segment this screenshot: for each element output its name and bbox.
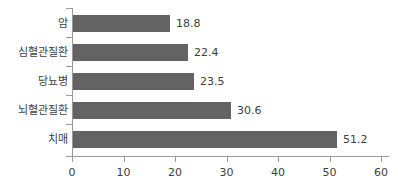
bar	[73, 131, 337, 148]
x-axis-tick	[124, 157, 125, 162]
category-label: 당뇨병	[0, 73, 68, 90]
y-axis-tick	[66, 8, 72, 9]
x-axis-tick-label: 50	[323, 166, 337, 179]
x-axis-tick	[381, 157, 382, 162]
bar-value-label: 51.2	[343, 131, 368, 148]
category-label: 암	[0, 15, 68, 32]
x-axis-tick	[278, 157, 279, 162]
bar-row: 뇌혈관질환 30.6	[0, 102, 398, 119]
bar-row: 암 18.8	[0, 15, 398, 32]
bar-value-label: 18.8	[176, 15, 201, 32]
category-label: 심혈관질환	[0, 44, 68, 61]
x-axis-tick-label: 20	[168, 166, 182, 179]
x-axis-line	[72, 156, 389, 157]
bar-row: 심혈관질환 22.4	[0, 44, 398, 61]
x-axis-tick-label: 40	[271, 166, 285, 179]
category-label: 뇌혈관질환	[0, 102, 68, 119]
y-axis-tick	[66, 95, 72, 96]
bar-value-label: 30.6	[237, 102, 262, 119]
x-axis-tick-label: 30	[220, 166, 234, 179]
bar	[73, 15, 170, 32]
bar-value-label: 22.4	[194, 44, 219, 61]
y-axis-tick	[66, 37, 72, 38]
x-axis-tick	[175, 157, 176, 162]
x-axis-tick-label: 60	[374, 166, 388, 179]
bar-row: 치매 51.2	[0, 131, 398, 148]
category-label: 치매	[0, 131, 68, 148]
y-axis-tick	[66, 124, 72, 125]
x-axis-tick-label: 10	[117, 166, 131, 179]
x-axis-tick	[72, 157, 73, 162]
bar	[73, 44, 188, 61]
y-axis-tick	[66, 66, 72, 67]
x-axis-tick	[227, 157, 228, 162]
bar	[73, 102, 231, 119]
x-axis-tick-label: 0	[69, 166, 76, 179]
bar-chart: 암 18.8 심혈관질환 22.4 당뇨병 23.5 뇌혈관질환 30.6 치매…	[0, 0, 398, 196]
bar-row: 당뇨병 23.5	[0, 73, 398, 90]
x-axis-tick	[330, 157, 331, 162]
bar	[73, 73, 194, 90]
bar-value-label: 23.5	[200, 73, 225, 90]
